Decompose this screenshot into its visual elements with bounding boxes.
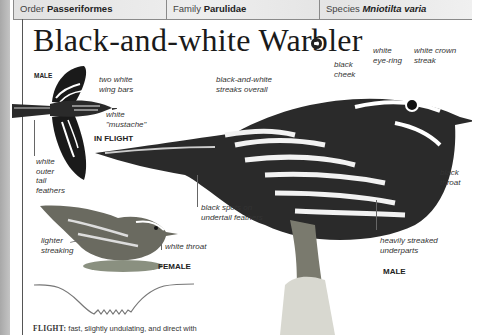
- underparts-pointer-line: [376, 200, 377, 230]
- female-throat-pointer-line: [161, 238, 162, 250]
- label-black-cheek: blackcheek: [334, 60, 355, 79]
- label-crown-streak: white crownstreak: [414, 46, 456, 65]
- taxonomy-order: Order Passeriformes: [14, 0, 167, 19]
- label-eye-ring: whiteeye-ring: [373, 46, 402, 65]
- family-value: Parulidae: [204, 3, 247, 14]
- flight-pattern-diagram: [34, 282, 194, 322]
- male-caption: MALE: [383, 267, 406, 276]
- label-undertail-spots: black spots onundertail feathers: [201, 203, 263, 222]
- page-right-margin: [472, 0, 480, 335]
- female-caption: FEMALE: [158, 262, 191, 271]
- flight-label: FLIGHT:: [33, 324, 66, 333]
- taxonomy-bar: Order Passeriformes Family Parulidae Spe…: [13, 0, 473, 20]
- undertail-pointer-line: [197, 175, 198, 207]
- flight-description: FLIGHT: fast, slightly undulating, and d…: [33, 324, 197, 333]
- label-streaked-underparts: heavily streakedunderparts: [380, 236, 438, 255]
- speaker-icon[interactable]: [311, 38, 322, 49]
- page-edge-strip: [0, 0, 10, 335]
- label-tail-feathers: whiteoutertailfeathers: [36, 157, 65, 195]
- label-lighter-streaking: lighterstreaking: [41, 236, 73, 255]
- label-streaks-overall: black-and-whitestreaks overall: [216, 75, 272, 94]
- taxonomy-species: Species Mniotilta varia: [320, 0, 472, 19]
- label-black-throat: blackthroat: [440, 168, 460, 187]
- flight-text: fast, slightly undulating, and direct wi…: [66, 324, 197, 333]
- taxonomy-family: Family Parulidae: [167, 0, 320, 19]
- label-white-throat: white throat: [165, 242, 206, 252]
- in-flight-sex-label: MALE: [34, 72, 52, 79]
- tail-pointer-line: [34, 120, 35, 156]
- order-value: Passeriformes: [47, 3, 112, 14]
- species-value: Mniotilta varia: [362, 3, 426, 14]
